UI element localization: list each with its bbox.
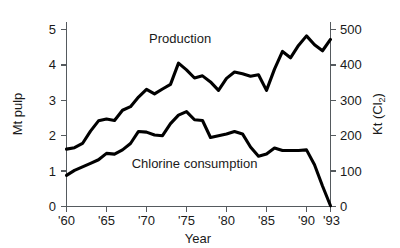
right-tick-label-400: 400 bbox=[340, 57, 362, 72]
x-tick-label-1960: '60 bbox=[58, 213, 75, 228]
right-tick-label-200: 200 bbox=[340, 128, 362, 143]
chart-figure: 0 1 2 3 4 5 0 100 200 300 400 500 bbox=[0, 0, 400, 248]
x-tick-label-1980: '80 bbox=[218, 213, 235, 228]
right-axis-tick-labels: 0 100 200 300 400 500 bbox=[340, 22, 362, 214]
left-tick-label-1: 1 bbox=[49, 164, 56, 179]
y-axis-title-right: Kt (Cl2) bbox=[370, 93, 387, 135]
left-axis-tick-labels: 0 1 2 3 4 5 bbox=[49, 22, 56, 214]
x-tick-label-1975: '75 bbox=[178, 213, 195, 228]
x-tick-label-1965: '65 bbox=[98, 213, 115, 228]
right-tick-label-300: 300 bbox=[340, 93, 362, 108]
x-tick-label-1990: '90 bbox=[298, 213, 315, 228]
left-tick-label-5: 5 bbox=[49, 22, 56, 37]
left-tick-label-3: 3 bbox=[49, 93, 56, 108]
y2-title-tail: ) bbox=[370, 93, 385, 97]
x-axis-ticks bbox=[67, 207, 331, 213]
left-tick-label-4: 4 bbox=[49, 57, 56, 72]
right-axis-ticks bbox=[331, 30, 337, 207]
y-axis-title-left: Mt pulp bbox=[10, 93, 25, 136]
right-tick-label-0: 0 bbox=[340, 199, 347, 214]
series-label-production: Production bbox=[149, 31, 211, 46]
left-tick-label-0: 0 bbox=[49, 199, 56, 214]
chart-canvas: 0 1 2 3 4 5 0 100 200 300 400 500 bbox=[0, 0, 400, 248]
x-axis-tick-labels: '60 '65 '70 '75 '80 '85 '90 '93 bbox=[58, 213, 340, 228]
left-axis-ticks bbox=[61, 30, 67, 207]
x-tick-label-1970: '70 bbox=[138, 213, 155, 228]
left-tick-label-2: 2 bbox=[49, 128, 56, 143]
y2-title-main: Kt (Cl bbox=[370, 102, 385, 135]
x-tick-label-1993: '93 bbox=[323, 213, 340, 228]
series-label-chlorine-consumption: Chlorine consumption bbox=[132, 156, 258, 171]
x-axis-title: Year bbox=[185, 231, 212, 246]
right-tick-label-100: 100 bbox=[340, 164, 362, 179]
right-tick-label-500: 500 bbox=[340, 22, 362, 37]
x-tick-label-1985: '85 bbox=[258, 213, 275, 228]
series-line-production bbox=[67, 36, 331, 149]
